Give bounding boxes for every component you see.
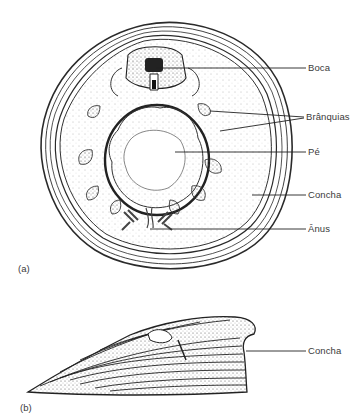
lateral-view-drawing — [28, 317, 255, 395]
label-concha-b: Concha — [308, 345, 341, 356]
ventral-view-drawing — [41, 22, 292, 268]
panel-tag-a: (a) — [18, 263, 30, 274]
label-concha-a: Concha — [308, 189, 341, 200]
label-anus: Ânus — [308, 223, 330, 234]
label-boca: Boca — [308, 62, 330, 73]
panel-tag-b: (b) — [20, 402, 32, 413]
label-pe: Pé — [308, 146, 320, 157]
figure-canvas — [0, 0, 360, 417]
label-branquias: Brânquias — [306, 111, 350, 122]
